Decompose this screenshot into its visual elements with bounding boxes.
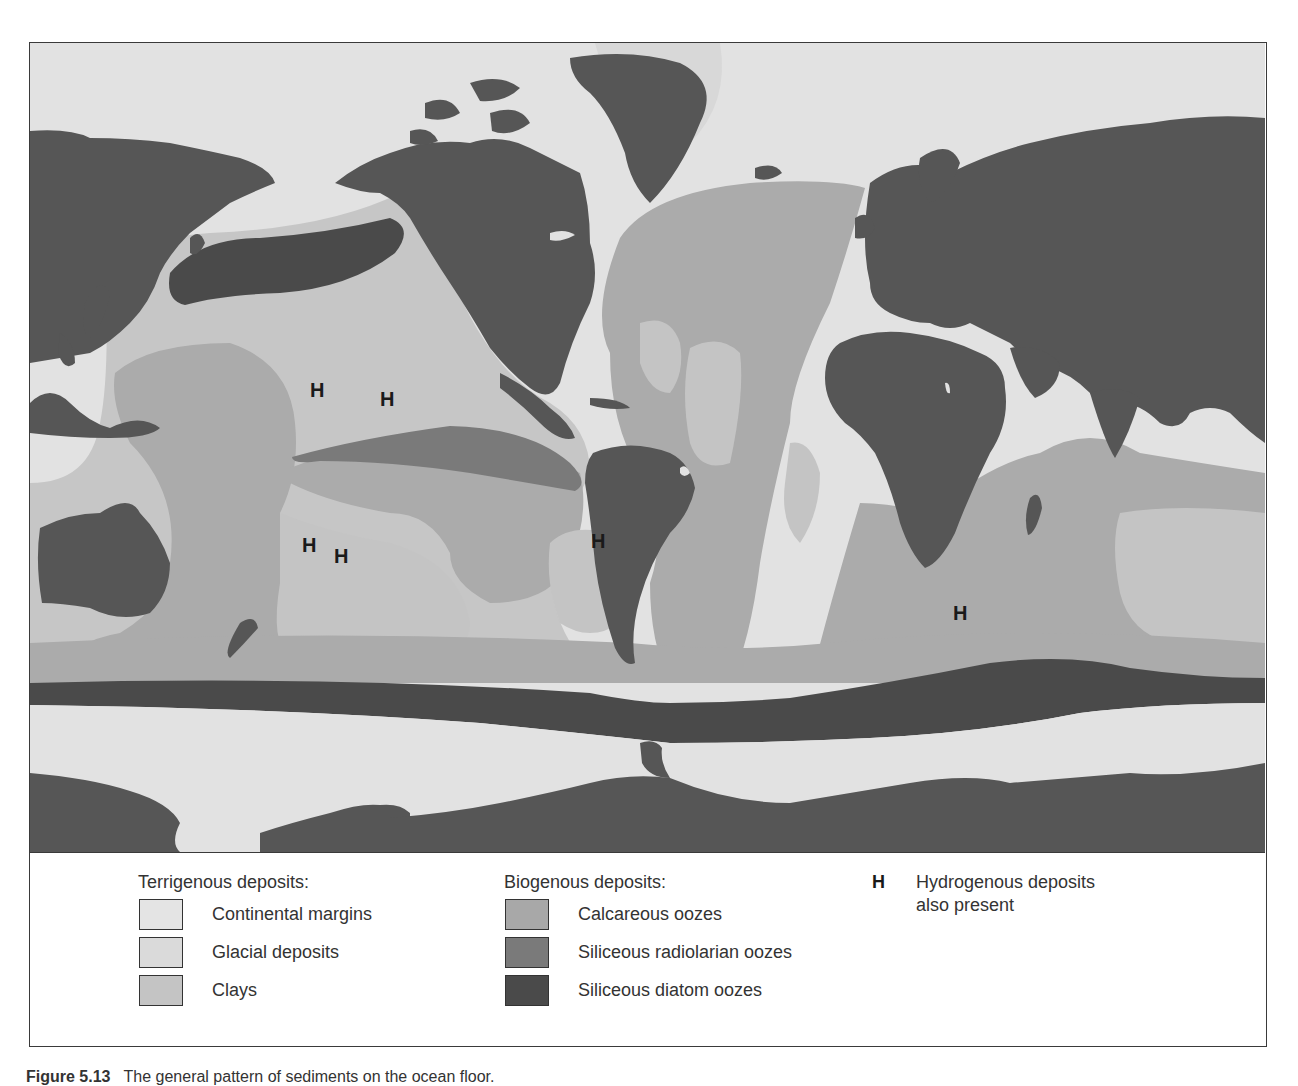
hydrogenous-marker: H <box>953 603 967 623</box>
swatch-continental-margins <box>139 899 183 930</box>
legend-label: Glacial deposits <box>212 942 339 963</box>
figure-frame: H H H H H H Terrigenous deposits: Contin… <box>29 42 1267 1047</box>
legend-title-biogenous: Biogenous deposits: <box>504 869 792 895</box>
caption-text: The general pattern of sediments on the … <box>124 1068 495 1085</box>
legend-label: Continental margins <box>212 904 372 925</box>
atlantic-clays-1 <box>685 342 741 466</box>
map-legend: Terrigenous deposits: Continental margin… <box>30 853 1265 1048</box>
legend-hydrogenous: H Hydrogenous deposits also present <box>872 869 1095 917</box>
swatch-radiolarian-oozes <box>505 937 549 968</box>
legend-biogenous: Biogenous deposits: Calcareous oozes Sil… <box>504 869 792 1009</box>
legend-row: Siliceous diatom oozes <box>504 971 792 1009</box>
hydrogenous-marker: H <box>334 546 348 566</box>
swatch-calcareous-oozes <box>505 899 549 930</box>
legend-row: Siliceous radiolarian oozes <box>504 933 792 971</box>
legend-row: Clays <box>138 971 372 1009</box>
hydrogenous-label-line2: also present <box>916 894 1095 917</box>
legend-label: Siliceous diatom oozes <box>578 980 762 1001</box>
hydrogenous-marker: H <box>380 389 394 409</box>
legend-label: Clays <box>212 980 257 1001</box>
swatch-glacial-deposits <box>139 937 183 968</box>
legend-label: Siliceous radiolarian oozes <box>578 942 792 963</box>
legend-row: Calcareous oozes <box>504 895 792 933</box>
legend-row: Continental margins <box>138 895 372 933</box>
caption-label: Figure 5.13 <box>26 1068 110 1085</box>
hydrogenous-symbol: H <box>872 869 916 917</box>
hydrogenous-label-line1: Hydrogenous deposits <box>916 871 1095 894</box>
hydrogenous-marker: H <box>302 535 316 555</box>
ocean-sediment-map: H H H H H H <box>30 43 1265 853</box>
world-map-svg <box>30 43 1265 852</box>
legend-row: Glacial deposits <box>138 933 372 971</box>
legend-label: Calcareous oozes <box>578 904 722 925</box>
hydrogenous-marker: H <box>310 380 324 400</box>
legend-terrigenous: Terrigenous deposits: Continental margin… <box>138 869 372 1009</box>
figure-caption: Figure 5.13 The general pattern of sedim… <box>26 1068 494 1086</box>
swatch-clays <box>139 975 183 1006</box>
legend-title-terrigenous: Terrigenous deposits: <box>138 869 372 895</box>
swatch-diatom-oozes <box>505 975 549 1006</box>
hydrogenous-marker: H <box>591 531 605 551</box>
